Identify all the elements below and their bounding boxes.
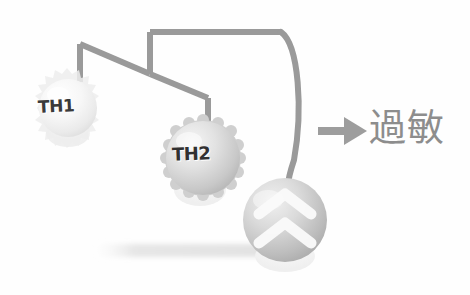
allergy-outcome-label: 過敏 <box>369 108 445 150</box>
cell-effector <box>243 178 327 272</box>
allergy-arrow <box>318 117 367 145</box>
connector-th1-diagonal <box>80 44 150 74</box>
connector-effector-curve <box>281 32 299 186</box>
allergy-diagram-figure: TH1 TH2 過敏 <box>0 0 470 295</box>
th2-label: TH2 <box>172 142 211 164</box>
th1-label: TH1 <box>38 95 75 117</box>
connector-th2-diagonal <box>150 74 208 98</box>
